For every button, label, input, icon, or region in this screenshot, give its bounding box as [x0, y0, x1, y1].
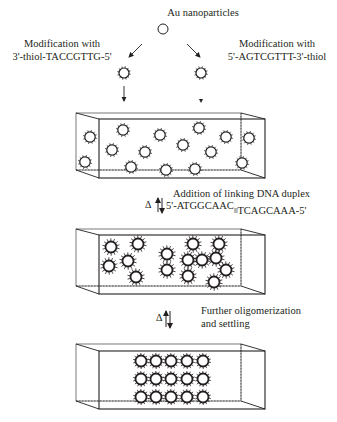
dna-coated-nanoparticle-icon — [197, 255, 208, 266]
dna-coated-nanoparticle-icon — [209, 277, 220, 288]
dna-coated-nanoparticle-icon — [190, 164, 200, 174]
dna-coated-nanoparticle-icon — [136, 356, 147, 367]
dna-coated-nanoparticle-icon — [237, 158, 247, 168]
dna-coated-nanoparticle-icon — [119, 68, 129, 78]
dna-coated-nanoparticle-icon — [85, 132, 95, 142]
arrow-right-diagonal — [187, 44, 200, 57]
dna-coated-nanoparticle-icon — [198, 392, 209, 403]
dna-coated-nanoparticle-icon — [140, 147, 150, 157]
modified-nanoparticle-left-icon — [117, 66, 130, 79]
dna-coated-nanoparticle-icon — [206, 147, 216, 157]
dna-coated-nanoparticle-icon — [151, 392, 162, 403]
dna-coated-nanoparticle-icon — [221, 132, 231, 142]
dna-coated-nanoparticle-icon — [244, 133, 254, 143]
dna-coated-nanoparticle-icon — [178, 140, 188, 150]
dna-coated-nanoparticle-icon — [166, 356, 177, 367]
bare-nanoparticle-icon — [158, 24, 168, 34]
dna-coated-nanoparticle-icon — [106, 242, 117, 253]
dna-coated-nanoparticle-icon — [166, 392, 177, 403]
dna-coated-nanoparticle-icon — [126, 162, 136, 172]
dna-coated-nanoparticle-icon — [136, 392, 147, 403]
dna-coated-nanoparticle-icon — [221, 265, 232, 276]
dna-coated-nanoparticle-icon — [211, 253, 222, 264]
dna-coated-nanoparticle-icon — [198, 374, 209, 385]
modified-nanoparticle-right-icon — [194, 66, 207, 79]
dna-coated-nanoparticle-icon — [182, 392, 193, 403]
dna-coated-nanoparticle-icon — [166, 374, 177, 385]
arrow-left-diagonal — [129, 44, 142, 57]
dna-coated-nanoparticle-icon — [133, 239, 144, 250]
box2-particles — [100, 235, 234, 290]
diagram-canvas — [0, 0, 337, 422]
dna-coated-nanoparticle-icon — [162, 265, 173, 276]
dna-coated-nanoparticle-icon — [131, 272, 142, 283]
dna-coated-nanoparticle-icon — [80, 157, 90, 167]
dna-coated-nanoparticle-icon — [107, 145, 117, 155]
dna-coated-nanoparticle-icon — [161, 165, 171, 175]
box3-particles — [133, 353, 211, 405]
dna-coated-nanoparticle-icon — [196, 68, 206, 78]
dna-coated-nanoparticle-icon — [183, 255, 194, 266]
dna-coated-nanoparticle-icon — [182, 356, 193, 367]
arrow-down-right-head — [199, 99, 203, 103]
dna-coated-nanoparticle-icon — [151, 356, 162, 367]
dna-coated-nanoparticle-icon — [188, 239, 199, 250]
dna-coated-nanoparticle-icon — [194, 123, 204, 133]
dna-coated-nanoparticle-icon — [123, 256, 134, 267]
dna-coated-nanoparticle-icon — [162, 249, 173, 260]
dna-coated-nanoparticle-icon — [136, 374, 147, 385]
dna-coated-nanoparticle-icon — [118, 125, 128, 135]
dna-coated-nanoparticle-icon — [183, 271, 194, 282]
box1-particles — [78, 121, 256, 177]
dna-coated-nanoparticle-icon — [155, 130, 165, 140]
dna-coated-nanoparticle-icon — [104, 261, 115, 272]
dna-coated-nanoparticle-icon — [182, 374, 193, 385]
dna-coated-nanoparticle-icon — [214, 239, 225, 250]
dna-coated-nanoparticle-icon — [198, 356, 209, 367]
dna-coated-nanoparticle-icon — [151, 374, 162, 385]
